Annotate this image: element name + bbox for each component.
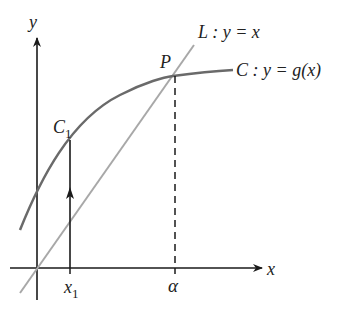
line-l xyxy=(20,45,194,293)
point-c1-label: C1 xyxy=(53,117,72,141)
x-axis-label: x xyxy=(266,259,275,279)
alpha-label: α xyxy=(168,275,179,296)
x1-label: x1 xyxy=(63,277,79,301)
point-p-label: P xyxy=(159,52,171,72)
y-axis-label: y xyxy=(27,12,37,32)
line-l-label: L : y = x xyxy=(197,22,260,42)
curve-c-label: C : y = g(x) xyxy=(236,60,321,81)
fixed-point-diagram: y x L : y = x C : y = g(x) P C1 x1 α xyxy=(0,0,342,310)
curve-c xyxy=(20,70,233,230)
